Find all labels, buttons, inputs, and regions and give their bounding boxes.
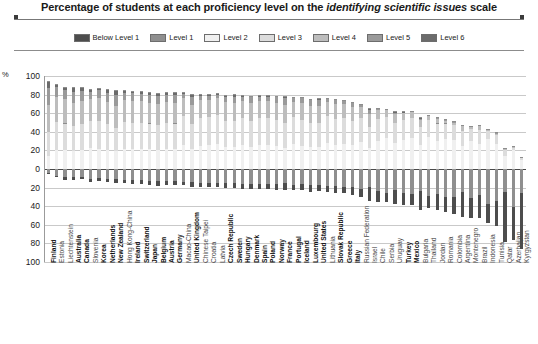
legend-swatch-icon (421, 34, 437, 42)
bar-segment (334, 118, 337, 145)
category-label: Montenegro (473, 228, 480, 263)
bar-segment (342, 100, 345, 101)
bar-segment (469, 126, 472, 127)
bar-segment (72, 169, 75, 177)
category-label: Latvia (220, 245, 227, 263)
legend-item: Below Level 1 (74, 33, 140, 42)
bar-segment (233, 96, 236, 104)
bar-segment (478, 129, 481, 144)
bar-segment (173, 123, 176, 149)
bar-segment (309, 99, 312, 101)
bar-segment (241, 144, 244, 170)
bar-segment (486, 204, 489, 223)
bar-segment (97, 88, 100, 90)
bar-segment (309, 105, 312, 123)
category-label: Luxembourg (313, 223, 320, 263)
bar-segment (216, 97, 219, 115)
bar-segment (478, 125, 481, 126)
bar-segment (283, 97, 286, 105)
bar-segment (275, 145, 278, 170)
bar-segment (106, 92, 109, 102)
bar-segment (478, 169, 481, 195)
bar-segment (173, 181, 176, 185)
bar-segment (114, 90, 117, 95)
bar-segment (207, 116, 210, 145)
bar-segment (317, 185, 320, 192)
legend-item: Level 5 (367, 33, 410, 42)
bar-column (156, 76, 159, 262)
category-label: Norway (279, 239, 286, 263)
bar-segment (55, 96, 58, 122)
bar-segment (131, 100, 134, 122)
category-label: Chile (380, 248, 387, 263)
bar-segment (503, 155, 506, 170)
bar-segment (258, 100, 261, 118)
bar-segment (190, 96, 193, 105)
bar-column (55, 76, 58, 262)
bar-segment (351, 106, 354, 121)
bar-segment (249, 146, 252, 170)
bar-segment (461, 145, 464, 170)
bar-segment (495, 169, 498, 201)
category-label: Qatar (507, 247, 514, 264)
category-label: Australia (76, 235, 83, 263)
bar-segment (241, 100, 244, 118)
bar-segment (216, 93, 219, 94)
category-label: Turkey (406, 242, 413, 263)
category-label: Tunisia (499, 242, 506, 263)
bar-segment (275, 184, 278, 190)
y-axis-labels: 10080604020020406080100 (0, 76, 40, 262)
category-label: Denmark (254, 235, 261, 263)
bar-segment (452, 121, 455, 122)
legend-item: Level 4 (313, 33, 356, 42)
bar-segment (342, 143, 345, 170)
category-label: New Zealand (118, 223, 125, 263)
bar-segment (300, 102, 303, 120)
bar-segment (148, 94, 151, 103)
bar-segment (190, 123, 193, 148)
bar-segment (207, 169, 210, 183)
bar-segment (182, 182, 185, 185)
bar-segment (55, 176, 58, 178)
bar-segment (359, 106, 362, 118)
category-label: Finland (51, 240, 58, 263)
bar-segment (89, 169, 92, 179)
bar-segment (80, 169, 83, 177)
bar-segment (376, 109, 379, 118)
bar-segment (106, 149, 109, 170)
category-label: Romania (448, 237, 455, 263)
bar-segment (131, 122, 134, 149)
bar-segment (258, 169, 261, 184)
bar-segment (309, 122, 312, 147)
legend-item-label: Level 6 (440, 33, 464, 42)
bar-segment (207, 94, 210, 96)
bar-segment (342, 117, 345, 144)
bar-segment (275, 119, 278, 146)
bar-segment (106, 169, 109, 179)
bar-segment (165, 181, 168, 185)
bar-segment (131, 92, 134, 101)
bar-segment (283, 147, 286, 170)
bar-segment (469, 169, 472, 198)
bar-segment (63, 169, 66, 177)
bar-segment (114, 150, 117, 170)
bar-segment (199, 183, 202, 187)
category-label: France (287, 241, 294, 263)
category-label: Kyrgyzstan (524, 230, 531, 263)
bar-segment (402, 111, 405, 112)
bar-segment (190, 169, 193, 182)
bar-segment (156, 149, 159, 170)
bar-segment (326, 115, 329, 143)
category-label: Hong Kong-China (127, 211, 134, 263)
bar-segment (317, 122, 320, 147)
bar-segment (486, 129, 489, 131)
bar-segment (190, 182, 193, 187)
category-label: Iceland (304, 240, 311, 263)
bar-segment (334, 99, 337, 100)
bar-segment (495, 201, 498, 226)
bar-segment (376, 191, 379, 201)
bar-segment (469, 198, 472, 218)
bar-segment (63, 149, 66, 170)
bar-segment (283, 96, 286, 98)
y-axis-tick-label: 60 (31, 108, 40, 118)
